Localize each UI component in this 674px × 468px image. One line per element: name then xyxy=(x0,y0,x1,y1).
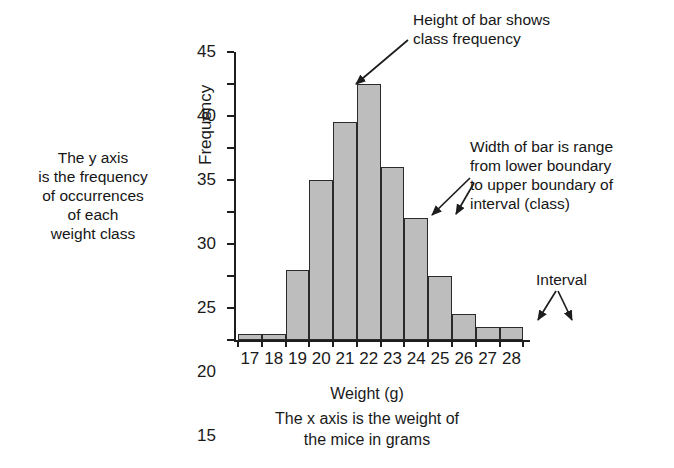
x-tick xyxy=(380,340,382,347)
leader-interval-left xyxy=(538,291,556,320)
histogram-bar xyxy=(357,84,381,340)
y-tick: 30 xyxy=(227,147,234,149)
y-tick: 15 xyxy=(227,243,234,245)
histogram-bar xyxy=(333,122,357,340)
leader-interval-right xyxy=(558,291,572,320)
histogram-bar xyxy=(500,327,524,340)
x-tick xyxy=(451,340,453,347)
y-tick-label: 25 xyxy=(197,299,216,316)
histogram-bar xyxy=(404,218,428,340)
y-tick: 10 xyxy=(227,275,234,277)
axes: 051015202530354045 171819202122232425262… xyxy=(234,52,530,340)
y-tick-label: 40 xyxy=(197,107,216,124)
x-tick xyxy=(522,340,524,347)
y-tick: 40 xyxy=(227,83,234,85)
interval-annotation: Interval xyxy=(536,270,636,289)
x-tick xyxy=(427,340,429,347)
y-tick: 0 xyxy=(227,339,234,341)
x-tick xyxy=(308,340,310,347)
histogram-bar xyxy=(381,167,405,340)
histogram-figure: The y axis is the frequency of occurrenc… xyxy=(0,0,674,468)
histogram-bar xyxy=(309,180,333,340)
x-tick xyxy=(261,340,263,347)
y-tick: 20 xyxy=(227,211,234,213)
x-tick xyxy=(332,340,334,347)
y-tick: 5 xyxy=(227,307,234,309)
histogram-bar xyxy=(452,314,476,340)
y-tick: 45 xyxy=(227,51,234,53)
x-tick xyxy=(403,340,405,347)
y-tick-label: 30 xyxy=(197,235,216,252)
y-tick-label: 35 xyxy=(197,171,216,188)
x-tick xyxy=(285,340,287,347)
y-axis-line xyxy=(234,52,236,341)
x-tick xyxy=(237,340,239,347)
bar-height-annotation: Height of bar shows class frequency xyxy=(413,10,633,48)
y-tick-label: 20 xyxy=(197,363,216,380)
histogram-bar xyxy=(476,327,500,340)
x-axis-caption: The x axis is the weight of the mice in … xyxy=(157,408,577,450)
y-tick: 35 xyxy=(227,115,234,117)
histogram-bar xyxy=(428,276,452,340)
x-axis-title: Weight (g) xyxy=(197,385,537,403)
histogram-bar xyxy=(262,334,286,340)
histogram-bar xyxy=(286,270,310,340)
x-tick xyxy=(475,340,477,347)
plot-area: Frequency 051015202530354045 17181920212… xyxy=(197,45,537,345)
y-axis-annotation: The y axis is the frequency of occurrenc… xyxy=(8,148,178,243)
x-tick xyxy=(499,340,501,347)
x-tick xyxy=(356,340,358,347)
y-tick-label: 45 xyxy=(197,43,216,60)
y-tick: 25 xyxy=(227,179,234,181)
x-tick-label: 28 xyxy=(496,350,526,368)
x-axis-line xyxy=(234,340,530,342)
histogram-bar xyxy=(238,334,262,340)
